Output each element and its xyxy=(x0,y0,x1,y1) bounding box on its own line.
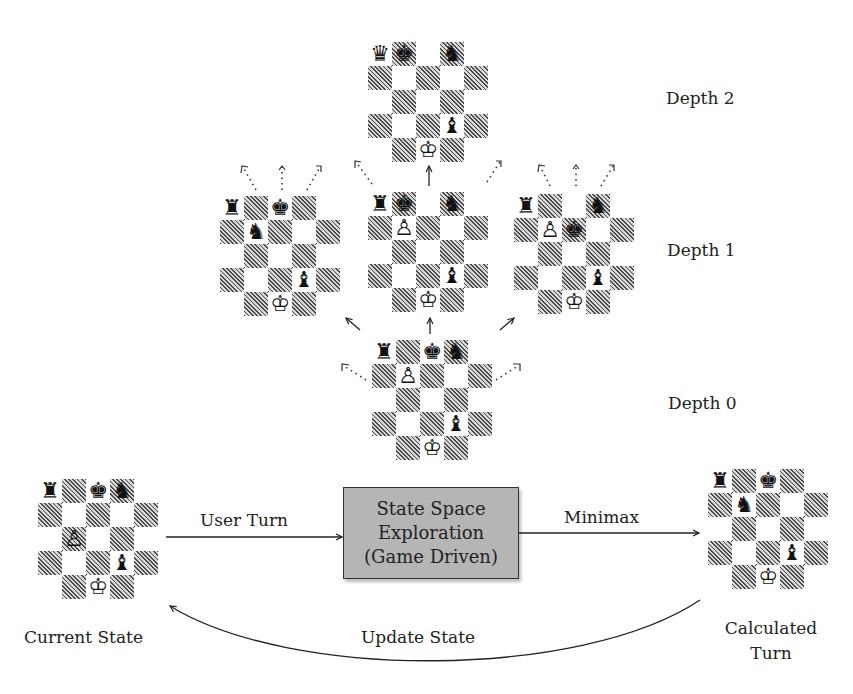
dotted-arrow-heads xyxy=(241,161,614,371)
dotted-arrows xyxy=(243,162,613,380)
arrow-depth0-to-depth1-left xyxy=(346,318,360,330)
arrow-depth0-to-depth1-right xyxy=(500,318,514,330)
arrows-layer xyxy=(0,0,853,694)
arrow-update-state xyxy=(170,600,700,661)
